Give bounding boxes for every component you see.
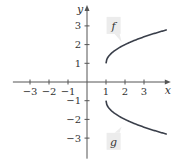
callout-g: g [107,127,122,150]
curve-g [106,101,167,134]
chart-container: −3−2−1123321−1−2−3 fg x y [0,0,180,165]
y-tick-label: −3 [66,133,81,144]
x-tick-label: 2 [122,86,128,97]
function-graph: −3−2−1123321−1−2−3 fg x y [0,0,180,165]
y-axis-label: y [76,3,84,16]
x-tick-label: −3 [23,86,38,97]
y-tick-label: 3 [75,20,81,31]
x-tick-label: 3 [141,86,147,97]
callout-pointer [115,127,122,133]
y-tick-label: 1 [75,58,81,69]
curve-f [106,30,167,63]
y-tick-label: −1 [66,95,81,106]
x-axis-label: x [165,84,172,97]
x-tick-label: 1 [103,86,109,97]
y-tick-label: 2 [75,39,81,50]
y-tick-label: −2 [66,114,81,125]
callout-f: f [107,17,122,42]
x-tick-label: −2 [42,86,57,97]
callout-pointer [115,34,122,42]
y-axis-arrow-icon [85,5,90,11]
series-label-g: g [110,136,117,149]
